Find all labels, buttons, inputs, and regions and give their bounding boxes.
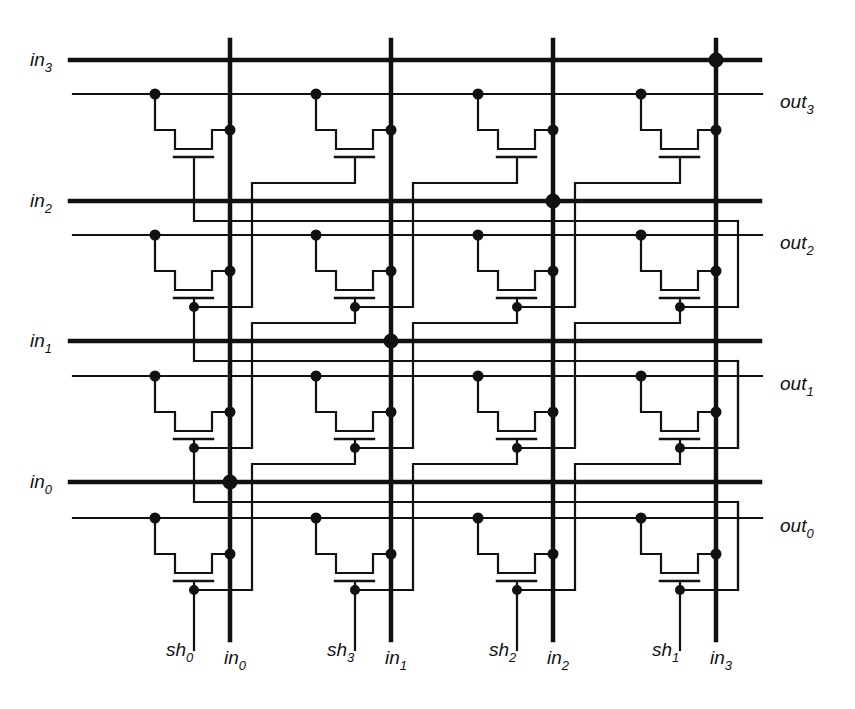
label-in0b: in0 [224, 647, 247, 673]
label-subscript: 1 [672, 650, 679, 665]
label-base: in [224, 647, 239, 668]
input-junction-dot [223, 475, 238, 490]
gate-node-dot [512, 443, 522, 453]
gate-node-dot [675, 302, 685, 312]
source-dot [225, 549, 236, 560]
transistor-channel [641, 518, 716, 573]
label-in3b: in3 [710, 647, 733, 673]
gate-node-dot [189, 585, 199, 595]
label-in2b: in2 [547, 647, 570, 673]
drain-dot [636, 371, 647, 382]
gate-node-dot [189, 302, 199, 312]
label-base: sh [489, 639, 509, 660]
label-subscript: 2 [44, 201, 53, 216]
label-subscript: 2 [561, 658, 570, 673]
label-base: in [30, 49, 45, 70]
label-base: in [30, 190, 45, 211]
label-out1: out1 [780, 373, 814, 399]
shift-wire [194, 157, 738, 221]
input-junction-dot [384, 334, 399, 349]
label-base: sh [166, 639, 186, 660]
drain-dot [150, 513, 161, 524]
label-base: sh [652, 639, 672, 660]
label-subscript: 2 [508, 650, 517, 665]
transistor-channel [155, 376, 230, 431]
drain-dot [311, 513, 322, 524]
transistor-channel [155, 518, 230, 573]
label-base: sh [327, 639, 347, 660]
source-dot [548, 266, 559, 277]
label-out0: out0 [780, 515, 814, 541]
transistor-channel [155, 235, 230, 290]
source-dot [548, 125, 559, 136]
source-dot [711, 549, 722, 560]
transistor-channel [316, 376, 391, 431]
shift-wire [575, 307, 680, 448]
source-dot [548, 549, 559, 560]
label-base: out [780, 515, 807, 536]
label-sh0: sh0 [166, 639, 194, 665]
gate-node-dot [350, 302, 360, 312]
label-base: out [780, 373, 807, 394]
label-base: out [780, 232, 807, 253]
drain-dot [150, 230, 161, 241]
transistor-channel [641, 94, 716, 149]
label-subscript: 2 [805, 243, 814, 258]
drain-dot [636, 89, 647, 100]
label-subscript: 0 [239, 658, 247, 673]
transistor-channel [316, 518, 391, 573]
label-subscript: 0 [186, 650, 194, 665]
source-dot [711, 125, 722, 136]
label-subscript: 3 [45, 60, 53, 75]
gate-node-dot [350, 585, 360, 595]
label-in1: in1 [30, 330, 52, 356]
label-subscript: 0 [806, 526, 814, 541]
label-sh1: sh1 [652, 639, 679, 665]
source-dot [386, 549, 397, 560]
transistor-channel [478, 376, 553, 431]
label-subscript: 0 [45, 482, 53, 497]
gate-node-dot [189, 443, 199, 453]
transistor-channel [641, 376, 716, 431]
drain-dot [311, 371, 322, 382]
transistor-channel [478, 94, 553, 149]
source-dot [386, 125, 397, 136]
transistor-channel [641, 235, 716, 290]
label-in0: in0 [30, 471, 53, 497]
gate-node-dot [512, 302, 522, 312]
label-in3: in3 [30, 49, 53, 75]
source-dot [225, 266, 236, 277]
label-base: in [30, 471, 45, 492]
source-dot [225, 407, 236, 418]
source-dot [711, 266, 722, 277]
drain-dot [473, 230, 484, 241]
drain-dot [473, 371, 484, 382]
gate-node-dot [350, 443, 360, 453]
label-subscript: 3 [725, 658, 733, 673]
label-subscript: 3 [806, 102, 814, 117]
shift-wire [252, 307, 355, 448]
label-subscript: 1 [45, 341, 52, 356]
shift-wire [413, 157, 517, 307]
thin-wires [73, 94, 762, 650]
label-in2: in2 [30, 190, 53, 216]
shift-wire [413, 307, 517, 448]
drain-dot [311, 89, 322, 100]
drain-dot [636, 230, 647, 241]
transistor-channel [316, 235, 391, 290]
label-base: in [547, 647, 562, 668]
barrel-shifter-diagram: in3in2in1in0out3out2out1out0sh0sh3sh2sh1… [0, 0, 855, 709]
drain-dot [150, 371, 161, 382]
source-dot [548, 407, 559, 418]
drain-dot [150, 89, 161, 100]
shift-wire [194, 307, 738, 448]
label-subscript: 1 [806, 384, 813, 399]
source-dot [711, 407, 722, 418]
drain-dot [473, 89, 484, 100]
label-base: in [385, 647, 400, 668]
label-sh2: sh2 [489, 639, 517, 665]
drain-dot [311, 230, 322, 241]
drain-dot [636, 513, 647, 524]
transistor-channel [478, 518, 553, 573]
transistor-channel [316, 94, 391, 149]
